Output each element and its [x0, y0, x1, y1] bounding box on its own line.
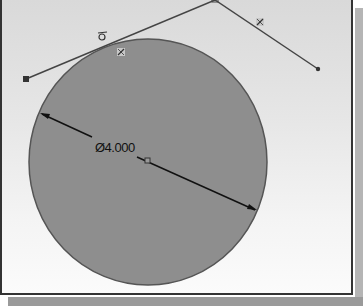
diameter-dimension-label[interactable]: Ø4.000 — [95, 140, 135, 155]
line-endpoint-left[interactable] — [23, 76, 29, 82]
sketch-viewport[interactable]: Ø4.000 — [0, 0, 353, 295]
sketch-canvas[interactable]: Ø4.000 — [2, 0, 353, 295]
line-endpoint-right[interactable] — [316, 67, 320, 71]
sketch-line-right[interactable] — [215, 0, 318, 69]
window-shadow-bottom — [8, 297, 363, 306]
tangent-relation-icon[interactable] — [98, 32, 107, 40]
relation-icon[interactable] — [256, 18, 264, 26]
circle-center-point[interactable] — [145, 158, 150, 163]
window-shadow-right — [355, 8, 363, 306]
relation-icon[interactable] — [117, 48, 125, 56]
